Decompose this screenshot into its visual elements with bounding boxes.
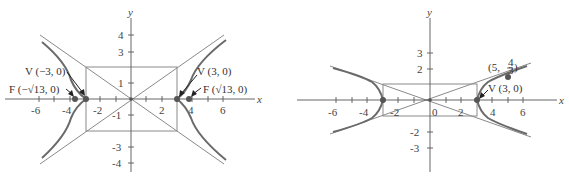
y-tick-label: -1 bbox=[112, 109, 121, 121]
graph-right: x y -6 -4 -2 0 2 4 6 bbox=[297, 6, 564, 172]
vertex-left-label: V (−3, 0) bbox=[25, 65, 66, 78]
y-tick-label: -3 bbox=[410, 142, 420, 154]
hyperbola-branch-left-left-graph bbox=[42, 42, 86, 158]
x-tick-label: -4 bbox=[359, 106, 369, 118]
vertex-right-label: V (3, 0) bbox=[197, 65, 232, 78]
x-tick-label: 6 bbox=[520, 106, 526, 118]
arrow-icon bbox=[181, 75, 197, 94]
vertex-point bbox=[474, 97, 480, 103]
x-axis-label-right: x bbox=[558, 94, 564, 106]
vertex-point bbox=[83, 96, 89, 102]
y-axis-label-right: y bbox=[426, 6, 432, 18]
arrow-icon bbox=[67, 72, 83, 93]
origin-point bbox=[428, 98, 432, 102]
vertex-point bbox=[380, 97, 386, 103]
focus-right-label: F (√13, 0) bbox=[203, 83, 248, 96]
y-tick-label: 1 bbox=[118, 77, 124, 89]
focus-point bbox=[72, 96, 78, 102]
x-tick-label: 2 bbox=[458, 106, 464, 118]
y-tick-label: 2 bbox=[417, 63, 423, 75]
vertex-right-label: V (3, 0) bbox=[488, 82, 523, 95]
y-tick-label: 3 bbox=[417, 47, 423, 59]
x-tick-label: -4 bbox=[62, 104, 72, 116]
svg-text:): ) bbox=[514, 61, 518, 74]
x-tick-label: 2 bbox=[159, 104, 165, 116]
hyperbola-branch-right-left-graph bbox=[177, 40, 226, 160]
x-tick-label: -6 bbox=[328, 106, 338, 118]
x-tick-label: -2 bbox=[93, 104, 102, 116]
svg-text:(5,: (5, bbox=[488, 61, 500, 74]
x-tick-label: 4 bbox=[490, 106, 496, 118]
graph-left: x y -6 -4 -2 2 4 6 bbox=[5, 6, 262, 172]
hyperbola-figures: x y -6 -4 -2 2 4 6 bbox=[0, 0, 569, 185]
origin-point bbox=[129, 97, 133, 101]
y-tick-label: -4 bbox=[112, 157, 122, 169]
x-tick-label: 6 bbox=[220, 104, 226, 116]
x-tick-label: -2 bbox=[390, 106, 399, 118]
y-tick-label: 3 bbox=[118, 46, 124, 58]
y-tick-label: -3 bbox=[112, 141, 122, 153]
x-axis-label-left: x bbox=[256, 93, 262, 105]
x-tick-label: -6 bbox=[31, 104, 41, 116]
y-tick-label: -2 bbox=[410, 126, 419, 138]
y-axis-label-left: y bbox=[127, 6, 133, 18]
x-tick-label: 0 bbox=[432, 106, 438, 118]
focus-left-label: F (−√13, 0) bbox=[9, 83, 60, 96]
y-tick-label: 4 bbox=[118, 29, 124, 41]
